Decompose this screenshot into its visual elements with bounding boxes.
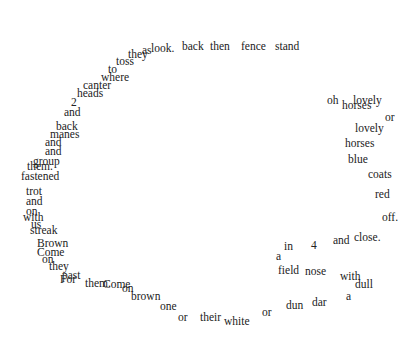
poem-word: white: [224, 316, 250, 328]
poem-word: off.: [382, 212, 398, 224]
poem-word: fence: [241, 41, 266, 53]
poem-word: heads: [77, 88, 103, 100]
poem-word: red: [375, 189, 390, 201]
poem-word: field: [278, 265, 299, 277]
poem-word: a: [346, 291, 351, 303]
poem-word: streak: [30, 225, 57, 237]
poem-word: nose: [305, 266, 326, 278]
poem-word: oh: [327, 95, 339, 107]
poem-word: fastened: [21, 171, 59, 183]
poem-word: close.: [354, 232, 381, 244]
poem-word: stand: [275, 41, 299, 53]
poem-word: or: [178, 312, 188, 324]
poem-word: in: [284, 241, 293, 253]
word-circle-poem: theyaslook.backthenfencestandtosstowhere…: [0, 0, 419, 347]
poem-word: 4: [311, 240, 317, 252]
poem-word: dun: [286, 300, 303, 312]
poem-word: look.: [151, 43, 174, 55]
poem-word: coats: [368, 169, 392, 181]
poem-word: dar: [312, 297, 327, 309]
poem-word: one: [160, 301, 177, 313]
poem-word: and: [64, 107, 81, 119]
poem-word: blue: [348, 154, 368, 166]
poem-word: then: [210, 41, 230, 53]
poem-word: back: [182, 41, 204, 53]
poem-word: or: [262, 307, 272, 319]
poem-word: their: [200, 312, 221, 324]
poem-word: and: [333, 235, 350, 247]
poem-word: horses: [345, 138, 374, 150]
poem-word: For: [60, 274, 76, 286]
poem-word: toss: [116, 56, 134, 68]
poem-word: a: [276, 251, 281, 263]
poem-word: brown: [131, 291, 160, 303]
poem-word: or: [385, 112, 395, 124]
poem-word: with: [340, 271, 360, 283]
poem-word: horses: [342, 100, 371, 112]
poem-word: lovely: [355, 123, 384, 135]
